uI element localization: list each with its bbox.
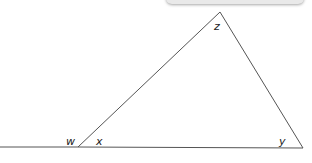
- angle-label-x: x: [95, 135, 103, 148]
- triangle: [78, 12, 303, 148]
- angle-label-w: w: [66, 135, 75, 148]
- angle-label-y: y: [278, 135, 286, 148]
- angle-label-z: z: [213, 20, 220, 33]
- triangle-diagram: w x y z: [0, 0, 312, 163]
